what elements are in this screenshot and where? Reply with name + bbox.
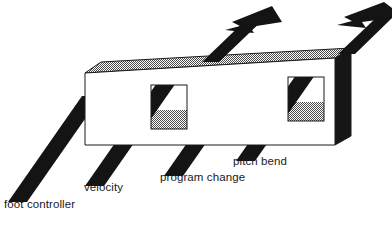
midi-data-flow-diagram: foot controller velocity program change …: [0, 0, 392, 225]
label-foot-controller: foot controller: [4, 199, 75, 211]
box-side-face: [335, 48, 351, 145]
label-pitch-bend: pitch bend: [233, 156, 287, 168]
output-arrow-icon: [338, 16, 392, 54]
output-arrow-head-icon: [225, 6, 282, 33]
diagram-canvas: [0, 0, 392, 225]
output-arrow-right: [337, 2, 392, 54]
slot-left-shelf: [151, 110, 187, 129]
label-velocity: velocity: [84, 182, 123, 194]
label-program-change: program change: [160, 172, 245, 184]
